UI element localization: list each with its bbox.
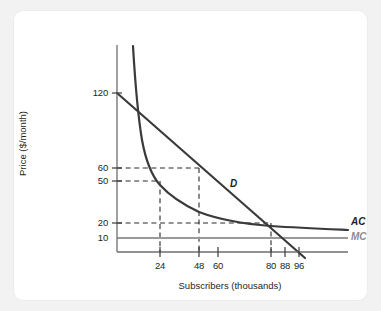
page-background: 120 60 50 20 10 24 48 60 80 88 96 Price … — [0, 0, 381, 311]
y-tick-label-120: 120 — [78, 87, 108, 98]
curve-label-marginal-cost: MC — [351, 231, 367, 242]
y-axis-title: Price ($/month) — [17, 89, 28, 199]
y-tick-label-10: 10 — [78, 232, 108, 243]
x-axis-title: Subscribers (thousands) — [110, 280, 350, 291]
curve-demand — [117, 93, 305, 258]
y-tick-label-20: 20 — [78, 217, 108, 228]
x-tick-label-24: 24 — [146, 260, 174, 271]
curve-label-average-cost: AC — [351, 216, 365, 227]
x-tick-label-60: 60 — [204, 260, 232, 271]
y-tick-label-50: 50 — [78, 175, 108, 186]
chart-plot-area: 120 60 50 20 10 24 48 60 80 88 96 Price … — [0, 0, 381, 311]
curve-label-demand: D — [230, 178, 237, 189]
y-tick-label-60: 60 — [78, 162, 108, 173]
x-tick-label-96: 96 — [285, 260, 313, 271]
